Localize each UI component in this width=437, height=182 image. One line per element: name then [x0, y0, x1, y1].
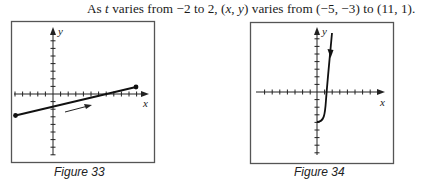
x-axis [256, 90, 382, 95]
y-axis-label: y [321, 25, 327, 37]
direction-arrow-icon [328, 49, 334, 58]
figure-34: x y [0, 0, 437, 182]
x-axis-label: x [379, 96, 385, 108]
x-axis-arrow-icon [377, 89, 385, 95]
y-axis-arrow-icon [314, 27, 320, 35]
figure-34-caption: Figure 34 [294, 165, 345, 179]
